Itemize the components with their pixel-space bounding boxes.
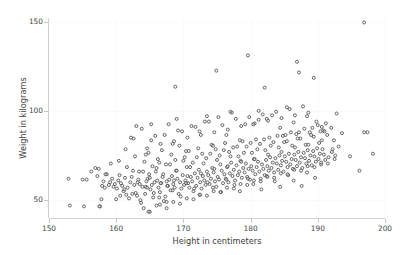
data-point [100, 198, 103, 201]
data-point [164, 163, 167, 166]
data-point [334, 154, 337, 157]
data-point [198, 130, 201, 133]
data-point [181, 130, 184, 133]
data-point [132, 169, 135, 172]
data-point [285, 106, 288, 109]
data-point [265, 158, 268, 161]
data-point [139, 199, 142, 202]
data-point [222, 182, 225, 185]
data-point [349, 155, 352, 158]
data-point [179, 202, 182, 205]
data-point [279, 164, 282, 167]
data-point [316, 147, 319, 150]
data-point [302, 151, 305, 154]
data-point [67, 177, 70, 180]
data-point [102, 180, 105, 183]
data-point [297, 131, 300, 134]
data-point [193, 187, 196, 190]
data-point [68, 204, 71, 207]
data-point [297, 150, 300, 153]
data-point [159, 182, 162, 185]
plot-area [49, 18, 385, 218]
data-point [243, 171, 246, 174]
data-point [316, 124, 319, 127]
data-point [165, 200, 168, 203]
data-point [229, 110, 232, 113]
data-point [223, 173, 226, 176]
data-point [371, 152, 374, 155]
data-point [115, 198, 118, 201]
data-point [215, 185, 218, 188]
data-point [260, 188, 263, 191]
data-point [191, 180, 194, 183]
x-tick-label: 160 [101, 225, 131, 232]
data-point [225, 178, 228, 181]
data-point [236, 145, 239, 148]
data-point [259, 142, 262, 145]
data-point [146, 186, 149, 189]
data-point [123, 176, 126, 179]
data-point [199, 193, 202, 196]
data-point [319, 130, 322, 133]
data-point [155, 204, 158, 207]
data-point [136, 181, 139, 184]
data-point [269, 144, 272, 147]
data-point [274, 157, 277, 160]
data-point [306, 115, 309, 118]
data-point [103, 186, 106, 189]
data-point [213, 180, 216, 183]
data-point [290, 158, 293, 161]
data-point [111, 177, 114, 180]
data-point [130, 175, 133, 178]
scatter-plot-figure: 50100150 150160170180190200 Height in ce… [0, 0, 402, 255]
data-point [280, 150, 283, 153]
data-point [206, 181, 209, 184]
data-point [313, 155, 316, 158]
data-point [221, 124, 224, 127]
data-point [322, 153, 325, 156]
data-point [127, 197, 130, 200]
data-point [201, 152, 204, 155]
data-point [248, 116, 251, 119]
data-point [304, 157, 307, 160]
x-tick-mark [49, 219, 50, 223]
data-point [144, 192, 147, 195]
data-point [231, 175, 234, 178]
data-point [252, 179, 255, 182]
data-point [213, 131, 216, 134]
data-point [209, 177, 212, 180]
data-point [273, 171, 276, 174]
data-point [136, 194, 139, 197]
data-point [261, 163, 264, 166]
data-point [213, 167, 216, 170]
data-point [277, 146, 280, 149]
data-point [253, 158, 256, 161]
data-point [306, 171, 309, 174]
data-point [115, 187, 118, 190]
data-point [152, 192, 155, 195]
data-point [298, 161, 301, 164]
data-point [285, 160, 288, 163]
data-point [246, 177, 249, 180]
data-point [257, 118, 260, 121]
data-point [276, 134, 279, 137]
data-point [194, 125, 197, 128]
x-tick-mark [183, 219, 184, 223]
data-point [264, 149, 267, 152]
data-point [186, 175, 189, 178]
data-point [320, 125, 323, 128]
data-point [205, 194, 208, 197]
data-point [250, 165, 253, 168]
data-point [309, 154, 312, 157]
data-point [117, 179, 120, 182]
data-point [277, 168, 280, 171]
data-point [150, 139, 153, 142]
data-point [275, 162, 278, 165]
data-point [246, 183, 249, 186]
data-point [125, 193, 128, 196]
y-tick-mark [44, 200, 48, 201]
data-point [235, 164, 238, 167]
data-point [324, 122, 327, 125]
data-point [151, 165, 154, 168]
data-point [163, 133, 166, 136]
